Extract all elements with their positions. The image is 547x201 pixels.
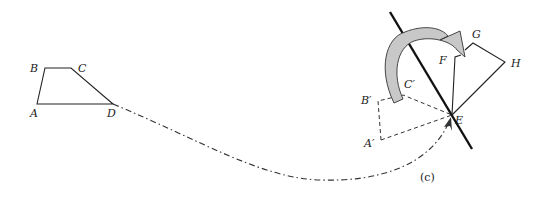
figure-caption: (c)	[420, 171, 435, 184]
label-b: B	[29, 62, 38, 75]
label-c: C	[78, 62, 87, 75]
label-a-prime: A′	[363, 137, 375, 150]
label-a: A	[29, 107, 38, 120]
translation-arrowhead	[444, 117, 452, 131]
glide-reflection-diagram: B C A D B′ C′ A′ E F G H (c)	[0, 0, 547, 201]
reflected-shape-efgh	[452, 55, 461, 115]
label-h: H	[510, 57, 521, 70]
reflected-shape-gh	[452, 43, 505, 115]
label-d: D	[106, 107, 116, 120]
trapezoid-abcd	[37, 68, 113, 104]
label-b-prime: B′	[360, 94, 372, 107]
label-f: F	[438, 54, 447, 67]
translation-path	[113, 104, 449, 180]
translated-shape-dashed	[378, 95, 452, 140]
label-g: G	[472, 28, 481, 41]
label-c-prime: C′	[404, 78, 415, 91]
